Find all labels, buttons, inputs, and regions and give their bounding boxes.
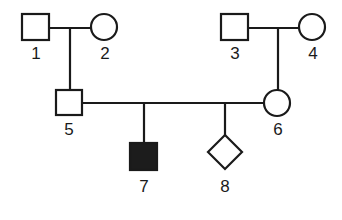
male-symbol-3 [221,14,248,40]
label-3: 3 [230,44,239,63]
female-symbol-6 [264,90,290,116]
female-symbol-4 [299,14,325,40]
label-2: 2 [100,44,109,63]
male-symbol-1 [22,14,49,40]
label-8: 8 [220,177,229,196]
label-4: 4 [308,44,317,63]
label-6: 6 [273,120,282,139]
male-symbol-5 [56,90,82,115]
label-5: 5 [64,120,73,139]
affected-male-symbol-7 [130,143,157,170]
label-7: 7 [139,177,148,196]
unknown-sex-symbol-8 [208,135,242,169]
female-symbol-2 [91,14,117,40]
label-1: 1 [31,44,40,63]
pedigree-chart: 1 2 3 4 5 6 7 8 [0,0,342,220]
